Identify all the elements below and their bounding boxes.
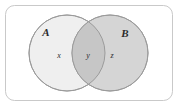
venn-diagram: A B x y z <box>0 0 178 108</box>
set-a-label: A <box>41 26 49 38</box>
region-label-x: x <box>56 51 61 60</box>
region-label-y: y <box>85 51 90 60</box>
venn-diagram-canvas: A B x y z <box>0 0 178 108</box>
set-b-label: B <box>120 27 128 39</box>
